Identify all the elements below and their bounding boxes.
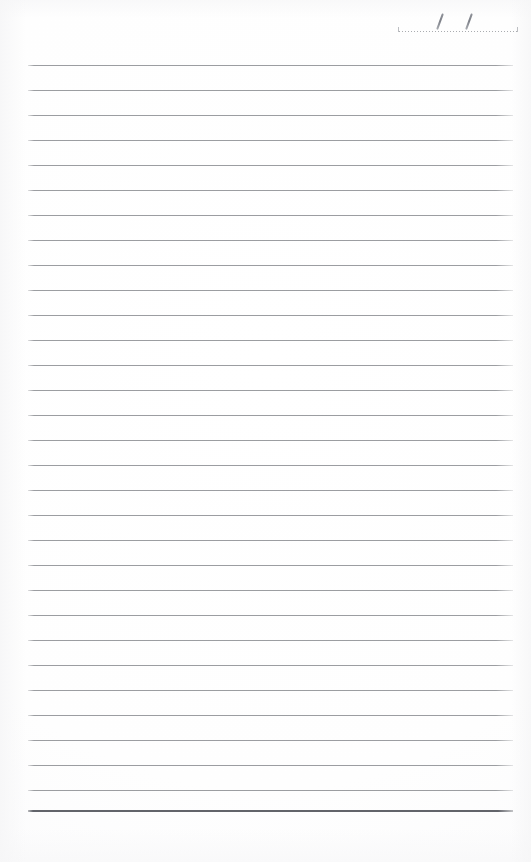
ruled-line [28, 90, 513, 91]
ruled-line [28, 665, 513, 666]
ruled-line [28, 540, 513, 541]
ruled-line [28, 315, 513, 316]
ruled-line [28, 490, 513, 491]
ruled-line [28, 640, 513, 641]
ruled-line [28, 690, 513, 691]
ruled-line [28, 215, 513, 216]
ruled-line [28, 615, 513, 616]
ruled-line [28, 365, 513, 366]
ruled-line [28, 115, 513, 116]
ruled-line [28, 65, 513, 66]
ruled-line [28, 265, 513, 266]
notepad-page [0, 0, 531, 862]
ruled-line [28, 715, 513, 716]
ruled-line [28, 440, 513, 441]
ruled-line [28, 240, 513, 241]
ruled-line [28, 165, 513, 166]
ruled-line [28, 740, 513, 741]
ruled-line [28, 765, 513, 766]
ruled-line [28, 590, 513, 591]
ruled-line [28, 340, 513, 341]
ruled-line [28, 415, 513, 416]
ruled-lines [0, 0, 531, 862]
ruled-line [28, 565, 513, 566]
ruled-line [28, 465, 513, 466]
ruled-line [28, 190, 513, 191]
ruled-line [28, 290, 513, 291]
ruled-line [28, 810, 513, 812]
ruled-line [28, 390, 513, 391]
ruled-line [28, 790, 513, 791]
ruled-line [28, 515, 513, 516]
ruled-line [28, 140, 513, 141]
